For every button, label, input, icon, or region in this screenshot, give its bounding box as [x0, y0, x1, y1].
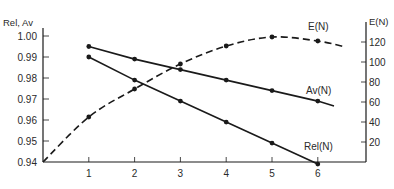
- left-tick-label: 0.94: [18, 157, 38, 168]
- data-point: [315, 162, 320, 167]
- series-label-av: Av(N): [306, 85, 331, 96]
- left-y-ticks: 1.000.990.980.970.960.950.94: [18, 31, 49, 168]
- x-tick-label: 2: [132, 168, 138, 179]
- data-point: [224, 44, 229, 49]
- right-tick-label: 120: [369, 37, 386, 48]
- data-point: [132, 57, 137, 62]
- right-tick-label: 20: [369, 137, 381, 148]
- line: [89, 57, 318, 164]
- left-tick-label: 0.99: [18, 52, 38, 63]
- data-point: [270, 88, 275, 93]
- left-axis-title: Rel, Av: [3, 17, 33, 28]
- x-tick-label: 3: [178, 168, 184, 179]
- x-tick-label: 1: [86, 168, 92, 179]
- left-tick-label: 0.97: [18, 94, 38, 105]
- data-point: [132, 87, 137, 92]
- left-tick-label: 0.95: [18, 136, 38, 147]
- data-point: [86, 44, 91, 49]
- right-tick-label: 100: [369, 57, 386, 68]
- x-tick-label: 5: [269, 168, 275, 179]
- data-point: [224, 120, 229, 125]
- series-layer: [43, 35, 345, 167]
- data-point: [224, 78, 229, 83]
- data-point: [178, 67, 183, 72]
- data-point: [86, 115, 91, 120]
- left-tick-label: 0.96: [18, 115, 38, 126]
- right-tick-label: 60: [369, 97, 381, 108]
- data-point: [315, 99, 320, 104]
- right-tick-label: 40: [369, 117, 381, 128]
- left-tick-label: 0.98: [18, 73, 38, 84]
- data-point: [270, 35, 275, 40]
- right-tick-label: 80: [369, 77, 381, 88]
- x-ticks: 123456: [86, 157, 321, 179]
- series-label-e: E(N): [308, 21, 329, 32]
- data-point: [270, 141, 275, 146]
- right-y-ticks: 12010080604020: [361, 37, 386, 148]
- right-axis-title: E(N): [369, 16, 389, 27]
- data-point: [178, 99, 183, 104]
- left-tick-label: 1.00: [18, 31, 38, 42]
- x-tick-label: 6: [315, 168, 321, 179]
- x-tick-label: 4: [223, 168, 229, 179]
- series-en: [43, 35, 345, 162]
- data-point: [315, 39, 320, 44]
- data-point: [178, 62, 183, 67]
- data-point: [86, 55, 91, 60]
- series-reln: [86, 55, 320, 167]
- reliability-availability-energy-chart: 1.000.990.980.970.960.950.94 12010080604…: [0, 0, 394, 189]
- series-label-rel: Rel(N): [304, 141, 333, 152]
- data-point: [132, 78, 137, 83]
